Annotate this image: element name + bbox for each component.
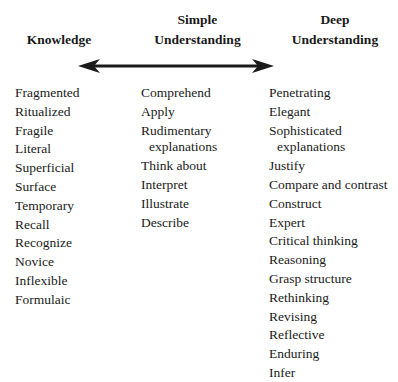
- list-item: Recall: [15, 216, 79, 235]
- list-item: Literal: [15, 140, 79, 159]
- header-deep-line2: Understanding: [280, 30, 390, 50]
- header-simple-line1: Simple: [135, 10, 260, 30]
- list-item: Ritualized: [15, 103, 79, 122]
- list-item: Reasoning: [269, 251, 387, 270]
- header-knowledge-label: Knowledge: [27, 32, 92, 47]
- list-item: Compare and contrast: [269, 176, 387, 195]
- list-item: Grasp structure: [269, 270, 387, 289]
- list-item: Reflective: [269, 326, 387, 345]
- list-item: Justify: [269, 157, 387, 176]
- list-item-continuation: explanations: [141, 138, 217, 157]
- list-item: Superficial: [15, 159, 79, 178]
- list-item: Formulaic: [15, 291, 79, 310]
- list-item: Critical thinking: [269, 232, 387, 251]
- list-item: Inflexible: [15, 272, 79, 291]
- list-item: Interpret: [141, 176, 217, 195]
- deep-understanding-column: Penetrating Elegant Sophisticated explan…: [269, 84, 387, 382]
- list-item: Comprehend: [141, 84, 217, 103]
- header-deep-line1: Deep: [280, 10, 390, 30]
- knowledge-column: Fragmented Ritualized Fragile Literal Su…: [15, 84, 79, 310]
- list-item: Rethinking: [269, 289, 387, 308]
- list-item: Enduring: [269, 345, 387, 364]
- list-item: Surface: [15, 178, 79, 197]
- list-item: Revising: [269, 308, 387, 327]
- list-item: Fragmented: [15, 84, 79, 103]
- double-arrow-icon: [78, 58, 274, 74]
- header-deep-understanding: Deep Understanding: [280, 10, 390, 50]
- list-item: Describe: [141, 214, 217, 233]
- list-item: Illustrate: [141, 195, 217, 214]
- list-item: Construct: [269, 195, 387, 214]
- list-item: Fragile: [15, 122, 79, 141]
- list-item: Novice: [15, 253, 79, 272]
- list-item-continuation: explanations: [269, 138, 387, 157]
- list-item: Expert: [269, 214, 387, 233]
- list-item: Temporary: [15, 197, 79, 216]
- list-item: Penetrating: [269, 84, 387, 103]
- header-knowledge: Knowledge: [14, 30, 104, 50]
- list-item: Think about: [141, 157, 217, 176]
- list-item: Elegant: [269, 103, 387, 122]
- list-item: Recognize: [15, 234, 79, 253]
- header-simple-line2: Understanding: [135, 30, 260, 50]
- header-simple-understanding: Simple Understanding: [135, 10, 260, 50]
- simple-understanding-column: Comprehend Apply Rudimentary explanation…: [141, 84, 217, 232]
- list-item: Apply: [141, 103, 217, 122]
- list-item: Infer: [269, 364, 387, 382]
